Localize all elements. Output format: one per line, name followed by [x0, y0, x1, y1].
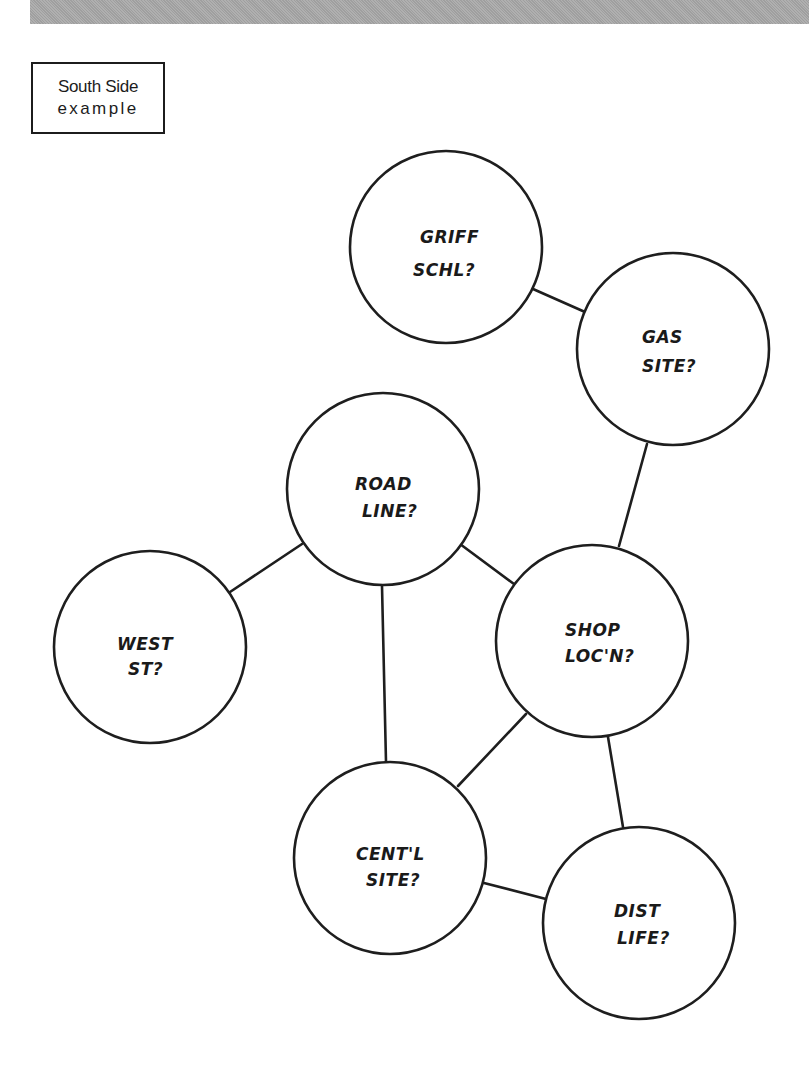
node-circle — [577, 253, 769, 445]
node-label-line1: WEST — [117, 634, 174, 654]
node-label-line2: SITE? — [642, 356, 696, 376]
edge-gas-shop — [619, 444, 647, 546]
node-label-line2: ST? — [128, 659, 163, 679]
node-circle — [350, 151, 542, 343]
node-label-line2: SITE? — [366, 870, 420, 890]
node-label-line2: LIFE? — [617, 928, 670, 948]
edge-shop-centl — [458, 714, 526, 786]
node-label-line1: CENT'L — [356, 844, 425, 864]
node-west: WEST ST? — [54, 551, 246, 743]
node-dist: DIST LIFE? — [543, 827, 735, 1019]
node-label-line1: GRIFF — [420, 227, 479, 247]
edge-centl-dist — [484, 883, 546, 899]
node-circle — [496, 545, 688, 737]
edge-griff-gas — [533, 289, 585, 312]
node-road: ROAD LINE? — [287, 393, 479, 585]
edge-road-centl — [382, 586, 386, 762]
site-diagram: GRIFF SCHL? GAS SITE? ROAD LINE? WEST ST… — [0, 0, 809, 1066]
node-label-line1: GAS — [642, 327, 683, 347]
node-griff: GRIFF SCHL? — [350, 151, 542, 343]
node-label-line2: SCHL? — [413, 260, 475, 280]
edge-road-west — [230, 544, 302, 592]
edge-shop-dist — [608, 737, 623, 827]
node-label-line2: LINE? — [362, 501, 417, 521]
node-label-line2: LOC'N? — [565, 646, 634, 666]
edge-road-shop — [460, 544, 514, 584]
node-circle — [543, 827, 735, 1019]
node-gas: GAS SITE? — [577, 253, 769, 445]
node-label-line1: SHOP — [565, 620, 620, 640]
node-label-line1: DIST — [614, 901, 661, 921]
node-shop: SHOP LOC'N? — [496, 545, 688, 737]
node-centl: CENT'L SITE? — [294, 762, 486, 954]
node-label-line1: ROAD — [355, 474, 412, 494]
